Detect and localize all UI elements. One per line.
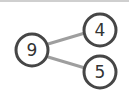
part-1-label: 4 <box>95 20 106 40</box>
connector-to-part-2 <box>48 57 85 68</box>
whole-label: 9 <box>27 40 38 60</box>
part-2-label: 5 <box>95 62 106 82</box>
number-bond-diagram: 9 4 5 <box>0 0 129 96</box>
connector-to-part-1 <box>48 33 85 44</box>
diagram-svg: 9 4 5 <box>0 0 129 96</box>
